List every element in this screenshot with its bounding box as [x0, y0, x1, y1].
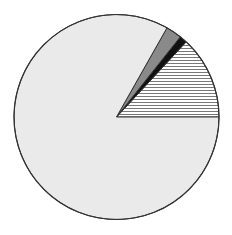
pie-slices	[14, 15, 219, 220]
pie-chart	[0, 0, 232, 235]
